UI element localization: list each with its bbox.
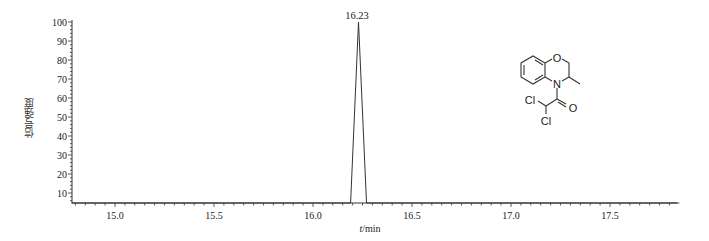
y-tick-label: 90 xyxy=(57,36,67,47)
y-axis: 102030405060708090100 xyxy=(52,17,72,204)
x-axis: 15.015.516.016.517.017.5 xyxy=(72,203,677,221)
y-tick-label: 80 xyxy=(57,55,67,66)
atom-nitrogen: N xyxy=(553,78,561,90)
y-tick-label: 100 xyxy=(52,17,67,28)
x-axis-title-unit: /min xyxy=(362,223,380,234)
x-tick-label: 17.0 xyxy=(502,210,520,221)
chromatogram-chart: 102030405060708090100 15.015.516.016.517… xyxy=(0,0,709,241)
y-tick-label: 30 xyxy=(57,150,67,161)
plot-area xyxy=(71,22,679,203)
x-tick-label: 17.5 xyxy=(601,210,619,221)
x-axis-title: t/min xyxy=(359,223,380,234)
y-tick-label: 40 xyxy=(57,131,67,142)
y-tick-label: 70 xyxy=(57,74,67,85)
x-tick-label: 16.0 xyxy=(304,210,322,221)
peak-label: 16.23 xyxy=(345,10,369,21)
y-tick-label: 10 xyxy=(57,188,67,199)
y-tick-label: 60 xyxy=(57,93,67,104)
x-tick-label: 16.5 xyxy=(403,210,421,221)
chromatogram-trace xyxy=(71,22,679,203)
atom-chlorine-1: Cl xyxy=(525,94,535,106)
y-tick-label: 50 xyxy=(57,112,67,123)
atom-chlorine-2: Cl xyxy=(541,115,551,127)
x-tick-label: 15.0 xyxy=(106,210,124,221)
benzene-ring xyxy=(521,56,545,84)
atom-oxygen-ring: O xyxy=(553,52,562,64)
y-tick-label: 20 xyxy=(57,169,67,180)
x-tick-label: 15.5 xyxy=(205,210,223,221)
atom-oxygen-carbonyl: O xyxy=(569,102,578,114)
